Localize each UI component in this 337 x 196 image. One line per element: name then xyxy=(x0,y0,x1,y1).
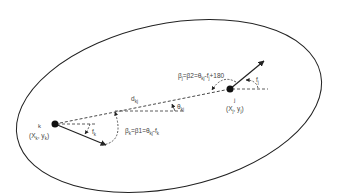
distance-label: dkj xyxy=(131,95,138,104)
angle-arc-theta xyxy=(172,104,175,111)
angle-fj-label: fj xyxy=(256,76,259,85)
node-k-coords: (Xk, yk) xyxy=(29,132,49,141)
beta-j-formula: βj=β2=θkj-fj+180 xyxy=(178,72,225,81)
heading-vector-k xyxy=(55,124,106,145)
node-k xyxy=(52,121,59,128)
node-j-coords: (Xj, yj) xyxy=(226,105,244,114)
angle-fk-label: fk xyxy=(92,128,97,137)
theta-label: θkj xyxy=(177,103,184,112)
region-boundary-ellipse xyxy=(0,0,337,196)
heading-vector-j xyxy=(230,61,264,89)
distance-line-kj xyxy=(55,89,230,124)
beta-k-formula: βk=β1=θkj-fk xyxy=(125,127,160,136)
node-j-name: j xyxy=(233,97,235,103)
network-geometry-diagram: k (Xk, yk) j (Xj, yj) dkj θkj fk fj βk=β… xyxy=(0,0,337,196)
node-j xyxy=(227,86,234,93)
node-k-name: k xyxy=(38,123,42,129)
angle-arc-fk xyxy=(85,124,90,134)
angle-arc-beta-k xyxy=(102,112,118,145)
